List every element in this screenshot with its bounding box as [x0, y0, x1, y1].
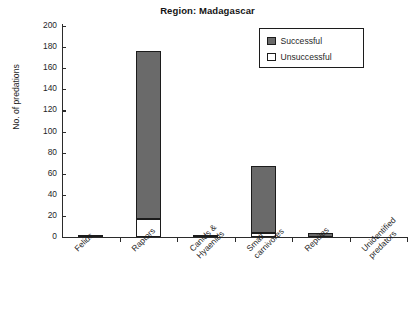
x-axis-label: Felids	[73, 231, 96, 254]
legend-swatch-unsuccessful-icon	[267, 53, 276, 62]
y-tick-mark	[62, 132, 67, 133]
y-tick-label: 180	[43, 41, 57, 51]
y-tick-mark	[62, 47, 67, 48]
bar-segment-successful	[136, 51, 161, 219]
y-tick-mark	[62, 89, 67, 90]
y-axis-title: No. of predations	[11, 37, 21, 157]
y-tick-label: 140	[43, 83, 57, 93]
y-tick-label: 200	[43, 20, 57, 30]
legend-item-successful: Successful	[267, 33, 363, 49]
y-tick-label: 100	[43, 126, 57, 136]
x-tick-mark	[120, 237, 121, 242]
x-tick-mark	[407, 237, 408, 242]
x-axis-label: Reptiles	[303, 226, 331, 254]
legend-label-successful: Successful	[281, 36, 323, 46]
y-tick-mark	[62, 110, 67, 111]
x-axis-label: Raptors	[130, 226, 158, 254]
chart-title: Region: Madagascar	[0, 5, 415, 16]
y-tick-mark	[62, 195, 67, 196]
x-axis-label: Canids & Hyaenids	[188, 222, 226, 260]
chart-legend: Successful Unsuccessful	[259, 28, 364, 68]
y-tick-label: 40	[48, 189, 57, 199]
bar-raptors	[136, 51, 161, 237]
legend-item-unsuccessful: Unsuccessful	[267, 49, 363, 65]
y-tick-label: 120	[43, 104, 57, 114]
x-tick-mark	[350, 237, 351, 242]
y-tick-label: 160	[43, 62, 57, 72]
y-tick-label: 20	[48, 210, 57, 220]
x-tick-mark	[177, 237, 178, 242]
y-tick-label: 80	[48, 147, 57, 157]
y-tick-mark	[62, 26, 67, 27]
legend-swatch-successful-icon	[267, 37, 276, 46]
y-tick-mark	[62, 68, 67, 69]
y-tick-label: 0	[52, 231, 57, 241]
y-tick-mark	[62, 216, 67, 217]
y-tick-mark	[62, 237, 67, 238]
legend-label-unsuccessful: Unsuccessful	[281, 52, 332, 62]
x-tick-mark	[235, 237, 236, 242]
chart-figure: Region: Madagascar 020406080100120140160…	[0, 0, 415, 315]
y-tick-label: 60	[48, 168, 57, 178]
x-tick-mark	[292, 237, 293, 242]
y-tick-mark	[62, 174, 67, 175]
y-tick-mark	[62, 153, 67, 154]
